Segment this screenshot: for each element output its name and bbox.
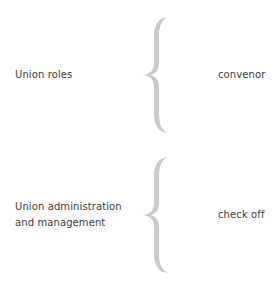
brace-shape (143, 17, 168, 133)
left-term-line: Union administration (15, 199, 122, 215)
left-term-union-administration: Union administration and management (15, 199, 122, 231)
curly-brace-icon (140, 15, 170, 135)
right-term-check-off: check off (218, 207, 265, 223)
curly-brace-icon (140, 155, 170, 275)
right-term-convenor: convenor (218, 67, 265, 83)
left-term-line: and management (15, 215, 122, 231)
brace-shape (143, 157, 168, 273)
left-term-union-roles: Union roles (15, 67, 72, 83)
left-term-line: Union roles (15, 67, 72, 83)
